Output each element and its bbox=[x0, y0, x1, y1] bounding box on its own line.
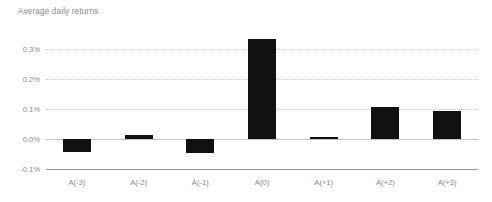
bar-A(-3)[interactable] bbox=[63, 139, 91, 152]
x-tick-label-A(+1): A(+1) bbox=[314, 178, 333, 187]
gridline-neg0_1pct bbox=[46, 169, 478, 170]
bar-A(-2)[interactable] bbox=[125, 135, 153, 139]
chart-container: Average daily returns 0.3%0.2%0.1%0.0%-0… bbox=[0, 0, 492, 202]
bar-A(0)[interactable] bbox=[248, 39, 276, 140]
y-tick-label: 0.0% bbox=[23, 135, 40, 144]
gridline-0_0pct bbox=[46, 139, 478, 140]
y-tick-label: 0.2% bbox=[23, 75, 40, 84]
bar-A(+1)[interactable] bbox=[310, 137, 338, 140]
chart-title: Average daily returns bbox=[18, 7, 98, 16]
x-tick-label-A(-1): A(-1) bbox=[192, 178, 209, 187]
y-tick-label: 0.3% bbox=[23, 45, 40, 54]
x-tick-label-A(-3): A(-3) bbox=[68, 178, 85, 187]
bar-A(+3)[interactable] bbox=[433, 111, 461, 139]
bar-A(+2)[interactable] bbox=[371, 107, 399, 139]
x-tick-label-A(0): A(0) bbox=[255, 178, 269, 187]
x-tick-label-A(+2): A(+2) bbox=[376, 178, 395, 187]
y-tick-label: -0.1% bbox=[20, 165, 40, 174]
x-tick-label-A(+3): A(+3) bbox=[438, 178, 457, 187]
plot-area: 0.3%0.2%0.1%0.0%-0.1% A(-3)A(-2)A(-1)A(0… bbox=[46, 34, 478, 169]
x-tick-label-A(-2): A(-2) bbox=[130, 178, 147, 187]
bar-A(-1)[interactable] bbox=[186, 139, 214, 153]
y-tick-label: 0.1% bbox=[23, 105, 40, 114]
